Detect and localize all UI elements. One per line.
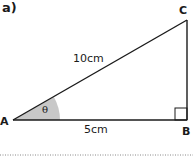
theta-angle-label: θ [42,105,48,115]
hypotenuse-length-label: 10cm [73,53,104,64]
base-length-label: 5cm [84,124,108,135]
side-ac [13,20,187,120]
right-angle-marker [175,108,187,120]
triangle-diagram [0,0,193,160]
vertex-a-label: A [0,116,9,127]
part-label: a) [2,1,17,14]
vertex-b-label: B [182,126,190,137]
vertex-c-label: C [179,5,187,16]
